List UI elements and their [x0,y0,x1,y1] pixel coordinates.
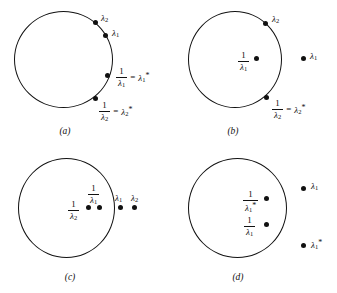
label-lambda-2-c: λ2 [131,194,138,204]
fraction-one-over-lambda-2-c: 1 λ2 [68,200,79,222]
lambda-subscript: 1 [119,196,122,203]
caption-panel-d: (d) [213,272,263,282]
lambda-subscript: 2 [105,16,108,23]
label-lambda-2-b: λ2 [272,15,279,25]
fraction-denominator: λ2 [99,112,110,123]
lambda-subscript: 2 [135,196,138,203]
fraction-numerator: 1 [68,200,79,211]
caption-panel-b: (b) [208,126,258,136]
fraction-one-over-lambda-1-c: 1 λ1 [88,184,99,206]
label-lambda-2-a: λ2 [101,14,108,24]
point-recip-lambda-1-b [254,56,259,61]
fraction-numerator: 1 [88,184,99,195]
lambda-subscript: 1 [314,54,317,61]
point-lambda-2-c [132,205,137,210]
caption-panel-a: (a) [40,126,90,136]
point-recip-lambda-1-star-d [264,196,269,201]
figure-four-unit-circles: λ2 λ1 1 λ1 = λ1* 1 λ2 = λ2* (a) [0,0,337,293]
fraction-one-over-lambda-2: 1 λ2 [99,101,110,123]
point-lambda-1-a [103,33,108,38]
fraction-numerator: 1 [116,67,127,78]
label-lambda-1-star: λ1* [138,72,149,84]
fraction-one-over-lambda-1-star-d: 1 λ1* [243,190,258,214]
label-lambda-2-star: λ2* [121,106,132,118]
fraction-denominator: λ1* [243,201,258,214]
unit-circle-d [188,158,287,258]
lambda-subscript: 1 [116,31,119,38]
fraction-denominator: λ1 [88,195,99,206]
star-glyph: * [318,238,322,247]
fraction-numerator: 1 [99,101,110,112]
label-lambda-2-star: λ2* [294,104,305,116]
fraction-numerator: 1 [243,190,258,201]
label-lambda-1-c: λ1 [115,194,122,204]
fraction-one-over-lambda-2: 1 λ2 [272,99,283,121]
equals-sign: = [286,105,291,114]
point-lambda-1-d [301,186,306,191]
caption-panel-c: (c) [45,272,95,282]
label-lambda-1-star-d: λ1* [311,239,322,251]
label-lambda-1-d: λ1 [311,182,318,192]
point-lambda-2-b [263,21,268,26]
equation-recip-lambda-2-b: 1 λ2 = λ2* [272,99,305,121]
fraction-denominator: λ1 [116,78,127,89]
fraction-denominator: λ2 [68,211,79,222]
unit-circle-a [14,11,113,108]
point-lambda-1-star-d [301,243,306,248]
fraction-numerator: 1 [272,99,283,110]
equation-recip-lambda-2-a: 1 λ2 = λ2* [99,101,132,123]
unit-circle-b [188,11,282,108]
point-lambda-1-b [301,56,306,61]
fraction-numerator: 1 [238,51,249,62]
point-recip-lambda-1-d [264,222,269,227]
label-lambda-1-b: λ1 [310,52,317,62]
equation-recip-lambda-1-a: 1 λ1 = λ1* [116,67,149,89]
point-recip-lambda-2-b [264,95,269,100]
fraction-denominator: λ1 [238,62,249,73]
fraction-denominator: λ1 [244,227,255,238]
fraction-one-over-lambda-1-d: 1 λ1 [244,216,255,238]
fraction-denominator: λ2 [272,110,283,121]
point-recip-lambda-1-a [105,73,110,78]
point-recip-lambda-2-a [93,96,98,101]
fraction-one-over-lambda-1: 1 λ1 [116,67,127,89]
lambda-subscript: 2 [276,17,279,24]
fraction-one-over-lambda-1-b: 1 λ1 [238,51,249,73]
equals-sign: = [130,73,135,82]
point-lambda-2-a [93,20,98,25]
fraction-numerator: 1 [244,216,255,227]
equals-sign: = [113,107,118,116]
label-lambda-1-a: λ1 [112,29,119,39]
lambda-subscript: 1 [315,184,318,191]
point-lambda-1-c [118,205,123,210]
